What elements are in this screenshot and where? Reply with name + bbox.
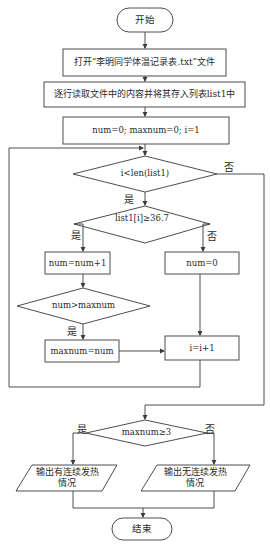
num-reset-label: num=0 [165,258,239,269]
open-file-label: 打开“李明同学体温记录表.txt”文件 [63,57,226,68]
temp-condition-label: list1[i]≥36.7 [74,213,210,224]
start-label: 开始 [117,14,173,25]
output-yes-line2: 情况 [22,478,112,489]
end-label: 结束 [112,523,172,534]
max-condition-label: num>maxnum [17,300,150,311]
set-max-label: maxnum=num [45,346,119,357]
loop-yes-label: 是 [124,194,134,205]
loop-no-label: 否 [224,162,234,173]
final-yes-label: 是 [77,424,87,435]
flowchart-canvas [0,0,270,547]
final-condition-label: maxnum≥3 [86,427,207,438]
output-no-line1: 输出无连续发热 [148,467,242,478]
output-no-line2: 情况 [148,478,242,489]
temp-yes-label: 是 [71,230,81,241]
output-yes-line1: 输出有连续发热 [22,467,112,478]
final-no-label: 否 [205,424,215,435]
i-increment-label: i=i+1 [165,343,239,354]
temp-condition-diamond [74,206,210,243]
max-yes-label: 是 [67,326,77,337]
temp-no-label: 否 [207,231,217,242]
init-label: num=0; maxnum=0; i=1 [63,125,229,136]
num-increment-label: num=num+1 [45,258,110,269]
read-lines-label: 逐行读取文件中的内容并将其存入列表list1中 [44,89,245,100]
loop-condition-label: i<len(list1) [73,168,217,179]
